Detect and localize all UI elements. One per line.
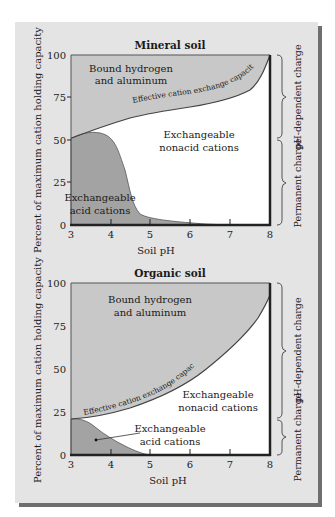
mineral-brace-permanent bbox=[277, 140, 286, 225]
svg-text:7: 7 bbox=[227, 229, 233, 240]
svg-text:5: 5 bbox=[147, 459, 153, 470]
organic-xlabel: Soil pH bbox=[149, 475, 187, 486]
mineral-bound-label-2: and aluminum bbox=[95, 75, 168, 86]
mineral-nonacid-label-1: Exchangeable bbox=[163, 129, 234, 140]
figure-svg: Mineral soil 3 4 5 6 7 8 0 25 bbox=[0, 0, 335, 517]
organic-brace-ph-dependent-label: pH-dependent charge bbox=[292, 297, 303, 402]
svg-text:5: 5 bbox=[147, 229, 153, 240]
organic-title: Organic soil bbox=[134, 267, 205, 279]
mineral-brace-permanent-label: Permanent charge bbox=[292, 138, 303, 227]
svg-text:6: 6 bbox=[187, 459, 193, 470]
mineral-chart: Mineral soil 3 4 5 6 7 8 0 25 bbox=[0, 0, 303, 256]
mineral-ylabel: Percent of maximum cation holding capaci… bbox=[32, 27, 43, 253]
svg-text:6: 6 bbox=[187, 229, 193, 240]
organic-brace-permanent bbox=[277, 420, 286, 455]
organic-bound-label-2: and aluminum bbox=[114, 307, 187, 318]
organic-brace-permanent-label: Permanent charge bbox=[292, 392, 303, 481]
svg-text:50: 50 bbox=[53, 135, 66, 146]
organic-acid-leader-dot bbox=[95, 439, 98, 442]
mineral-nonacid-label-2: nonacid cations bbox=[159, 142, 239, 153]
svg-text:3: 3 bbox=[68, 229, 74, 240]
svg-text:8: 8 bbox=[267, 229, 273, 240]
svg-text:75: 75 bbox=[53, 321, 66, 332]
organic-x-ticks: 3 4 5 6 7 8 bbox=[68, 459, 273, 470]
mineral-y-ticks: 0 25 50 75 100 bbox=[47, 50, 66, 231]
svg-text:8: 8 bbox=[267, 459, 273, 470]
svg-text:0: 0 bbox=[60, 220, 66, 231]
svg-text:0: 0 bbox=[60, 450, 66, 461]
organic-brace-ph-dependent bbox=[277, 283, 286, 418]
svg-text:50: 50 bbox=[53, 364, 66, 375]
organic-nonacid-label-1: Exchangeable bbox=[182, 389, 253, 400]
mineral-acid-label-1: Exchangeable bbox=[64, 192, 135, 203]
svg-text:100: 100 bbox=[47, 50, 66, 61]
svg-text:25: 25 bbox=[53, 177, 66, 188]
organic-ylabel: Percent of maximum cation holding capaci… bbox=[32, 257, 43, 483]
svg-text:3: 3 bbox=[68, 459, 74, 470]
mineral-acid-label-2: acid cations bbox=[70, 205, 131, 216]
mineral-title: Mineral soil bbox=[135, 39, 206, 51]
organic-y-ticks: 0 25 50 75 100 bbox=[47, 278, 66, 461]
svg-text:4: 4 bbox=[108, 459, 114, 470]
organic-nonacid-label-2: nonacid cations bbox=[178, 402, 258, 413]
svg-text:100: 100 bbox=[47, 278, 66, 289]
mineral-bound-label-1: Bound hydrogen bbox=[89, 63, 173, 74]
svg-text:75: 75 bbox=[53, 92, 66, 103]
mineral-brace-ph-dependent-label: pH-dependent charge bbox=[292, 44, 303, 149]
organic-acid-label-2: acid cations bbox=[140, 436, 201, 447]
svg-text:25: 25 bbox=[53, 407, 66, 418]
mineral-brace-ph-dependent bbox=[277, 55, 286, 138]
mineral-xlabel: Soil pH bbox=[137, 245, 175, 256]
organic-bound-label-1: Bound hydrogen bbox=[108, 294, 192, 305]
svg-text:4: 4 bbox=[108, 229, 114, 240]
svg-text:7: 7 bbox=[227, 459, 233, 470]
mineral-x-ticks: 3 4 5 6 7 8 bbox=[68, 229, 273, 240]
organic-acid-label-1: Exchangeable bbox=[134, 423, 205, 434]
